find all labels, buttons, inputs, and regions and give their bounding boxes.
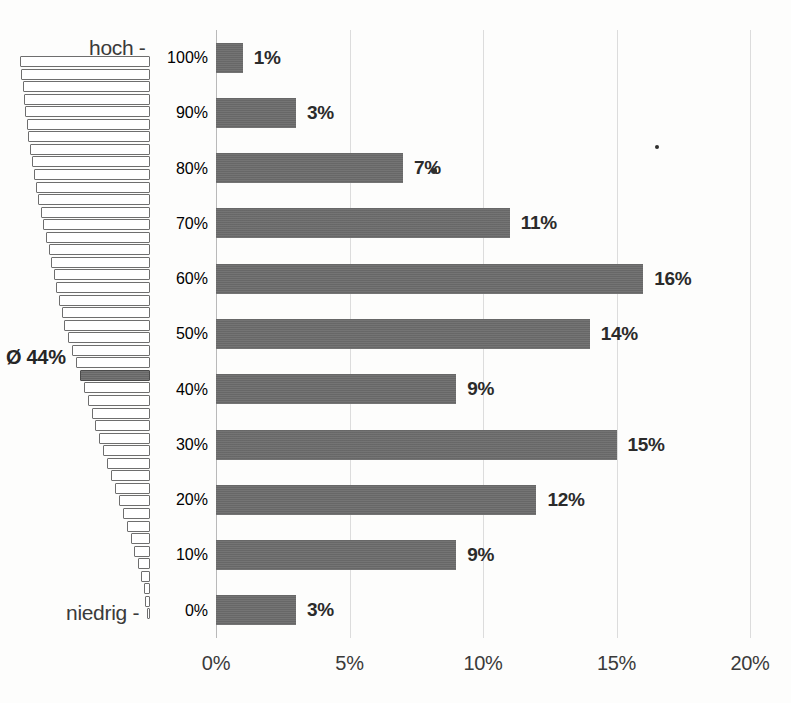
x-axis-tick-label: 15% xyxy=(597,652,636,675)
bar xyxy=(216,485,536,515)
bar-value-label: 14% xyxy=(601,323,638,345)
y-axis-tick-label: 40% xyxy=(130,362,208,417)
x-axis-tick-label: 0% xyxy=(202,652,230,675)
y-axis-tick-label: 10% xyxy=(130,527,208,582)
bar-row: 3% xyxy=(216,583,750,638)
bar-value-label: 3% xyxy=(307,102,334,124)
bar-value-label: 15% xyxy=(628,434,665,456)
gridline-20 xyxy=(750,30,751,638)
scan-speck xyxy=(655,145,659,149)
plot-area: 1%3%7%11%16%14%9%15%12%9%3% xyxy=(216,30,750,638)
y-axis-tick-label: 50% xyxy=(130,306,208,361)
y-axis-tick-label: 100% xyxy=(130,30,208,85)
chart-canvas: Ø 44% hoch - niedrig - 100%90%80%70%60%5… xyxy=(0,0,791,703)
bar-value-label: 1% xyxy=(254,47,281,69)
bar-value-label: 3% xyxy=(307,599,334,621)
bar-row: 9% xyxy=(216,362,750,417)
bar-row: 12% xyxy=(216,472,750,527)
bar-value-label: 12% xyxy=(547,489,584,511)
bar-value-label: 16% xyxy=(654,268,691,290)
x-axis-tick-label: 20% xyxy=(730,652,769,675)
x-axis-tick-label: 5% xyxy=(335,652,363,675)
bar xyxy=(216,208,510,238)
bar-row: 1% xyxy=(216,30,750,85)
bar xyxy=(216,319,590,349)
y-axis-tick-label: 30% xyxy=(130,417,208,472)
bar xyxy=(216,98,296,128)
bar-value-label: 11% xyxy=(521,212,557,234)
bar-value-label: 9% xyxy=(467,544,494,566)
bar xyxy=(216,595,296,625)
bar-row: 7% xyxy=(216,141,750,196)
y-axis-ticks: 100%90%80%70%60%50%40%30%20%10%0% xyxy=(130,30,208,638)
x-axis-ticks: 0%5%10%15%20% xyxy=(216,652,750,692)
bar xyxy=(216,540,456,570)
bar xyxy=(216,264,643,294)
y-axis-tick-label: 20% xyxy=(130,472,208,527)
mean-annotation: Ø 44% xyxy=(6,346,66,369)
bar xyxy=(216,43,243,73)
bar xyxy=(216,374,456,404)
y-axis-tick-label: 80% xyxy=(130,141,208,196)
bar xyxy=(216,153,403,183)
bar-row: 15% xyxy=(216,417,750,472)
y-axis-tick-label: 60% xyxy=(130,251,208,306)
y-axis-tick-label: 90% xyxy=(130,85,208,140)
bar-row: 9% xyxy=(216,527,750,582)
bar-row: 16% xyxy=(216,251,750,306)
y-axis-tick-label: 70% xyxy=(130,196,208,251)
bar xyxy=(216,430,617,460)
bar-row: 11% xyxy=(216,196,750,251)
bar-value-label: 9% xyxy=(467,378,494,400)
x-axis-tick-label: 10% xyxy=(463,652,502,675)
axis-bottom-label: niedrig - xyxy=(66,601,139,625)
scan-speck xyxy=(431,168,437,174)
y-axis-tick-label: 0% xyxy=(130,583,208,638)
bar-row: 3% xyxy=(216,85,750,140)
bar-value-label: 7% xyxy=(414,157,441,179)
bar-row: 14% xyxy=(216,306,750,361)
